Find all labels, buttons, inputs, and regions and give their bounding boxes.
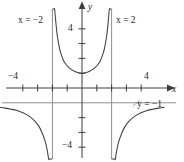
asymptote-right-label: x = 2 (116, 16, 136, 26)
y-axis-arrow (79, 2, 86, 10)
y-axis-label: y (88, 3, 92, 13)
x-tick-label-negative-four: −4 (8, 72, 18, 82)
x-axis-label: x (172, 85, 176, 95)
asymptote-horizontal-label: y = −1 (137, 100, 162, 110)
graph-figure: x = −2 x = 2 y = −1 −4 4 4 −4 x y (0, 0, 184, 162)
curve-branch-right (112, 107, 164, 159)
y-tick-label-negative-four: −4 (62, 141, 72, 151)
x-tick-label-four: 4 (144, 72, 149, 82)
curve-branch-left (0, 107, 52, 159)
y-tick-label-four: 4 (68, 24, 73, 34)
asymptote-left-label: x = −2 (18, 16, 43, 26)
